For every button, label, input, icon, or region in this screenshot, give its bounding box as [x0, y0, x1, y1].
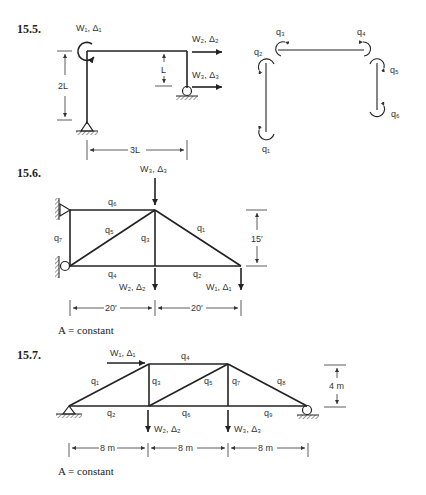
member-q2: q₂: [193, 269, 202, 279]
member-q6: q₆: [108, 197, 117, 207]
problem-15-7: 15.7. W₁, Δ₁ q₄ q₁ q₃ q₅ q₇ q₈ q₂ q₆: [17, 348, 346, 477]
dim-width: 3L: [130, 145, 140, 155]
roller-support: [176, 87, 198, 101]
load-w2-label: W₂, Δ₂: [154, 424, 181, 434]
structural-problems-figure: 15.5. W₁, Δ₁ W₂, Δ₂ W₃, Δ₃: [0, 0, 426, 495]
member-q1: q₁: [197, 223, 205, 233]
dim-span-2: 8 m: [178, 443, 193, 453]
coord-q5: q₅: [390, 65, 399, 75]
load-w1-label: W₁, Δ₁: [76, 23, 102, 33]
coord-q3: q₃: [276, 27, 285, 37]
load-w1-label: W₁, Δ₁: [110, 348, 136, 358]
truss: [69, 364, 307, 406]
load-w3-label: W₃, Δ₃: [140, 164, 167, 174]
problem-15-6: 15.6. q₆ q₇ q₅ q₃ q₁ q₄ q₂ W₃, Δ₃ W: [17, 164, 267, 336]
member-q5: q₅: [105, 225, 114, 235]
pin-support: [56, 406, 82, 418]
member-q3: q₃: [141, 233, 150, 243]
coordinate-diagram: [258, 42, 384, 140]
load-w3-label: W₃, Δ₃: [192, 70, 219, 80]
member-q7: q₇: [232, 376, 240, 386]
dim-span-3: 8 m: [258, 443, 273, 453]
roller-support: [297, 406, 319, 420]
problem-15-5: 15.5. W₁, Δ₁ W₂, Δ₂ W₃, Δ₃: [17, 22, 400, 160]
member-q1: q₁: [91, 376, 99, 386]
load-w1-label: W₁, Δ₁: [206, 282, 232, 292]
member-q5: q₅: [204, 376, 213, 386]
load-w3-label: W₃, Δ₃: [234, 424, 261, 434]
member-q9: q₉: [264, 408, 273, 418]
coord-q1: q₁: [262, 144, 270, 154]
truss: [70, 210, 241, 266]
wall-pin-support: [55, 198, 70, 220]
load-w2-label: W₂, Δ₂: [192, 34, 219, 44]
dim-span-1: 8 m: [100, 443, 115, 453]
member-q8: q₈: [277, 376, 286, 386]
problem-number: 15.7.: [17, 348, 41, 362]
area-note: A = constant: [58, 465, 114, 477]
coord-q2: q₂: [254, 47, 263, 57]
wall-roller-support: [55, 256, 70, 278]
frame: [87, 51, 187, 124]
member-q6: q₆: [182, 408, 191, 418]
member-q3: q₃: [152, 376, 161, 386]
member-q7: q₇: [54, 233, 62, 243]
load-w2-label: W₂, Δ₂: [119, 282, 146, 292]
dim-height: 4 m: [329, 381, 344, 391]
dim-offset: L: [161, 65, 166, 75]
dim-height: 15′: [251, 234, 263, 244]
coord-q6: q₆: [391, 109, 400, 119]
dim-span-1: 20′: [105, 303, 117, 313]
member-q2: q₂: [107, 408, 116, 418]
dim-height: 2L: [58, 81, 68, 91]
member-q4: q₄: [108, 269, 117, 279]
coord-q4: q₄: [357, 27, 366, 37]
problem-number: 15.6.: [17, 166, 41, 180]
dimension-lines: [57, 51, 187, 160]
dim-span-2: 20′: [191, 303, 203, 313]
member-q4: q₄: [181, 351, 190, 361]
area-note: A = constant: [58, 324, 114, 336]
problem-number: 15.5.: [17, 22, 41, 36]
